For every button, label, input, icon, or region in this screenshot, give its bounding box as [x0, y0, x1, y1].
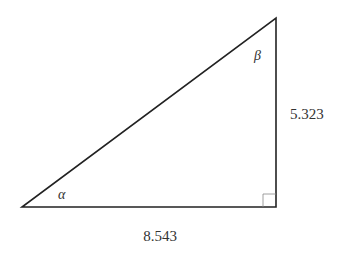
- triangle-diagram: α β 5.323 8.543: [0, 0, 338, 257]
- right-triangle: [22, 18, 276, 207]
- angle-beta-label: β: [253, 48, 261, 63]
- base-label: 8.543: [143, 228, 177, 244]
- angle-alpha-label: α: [58, 187, 66, 202]
- height-label: 5.323: [290, 106, 324, 122]
- right-angle-marker: [263, 194, 276, 207]
